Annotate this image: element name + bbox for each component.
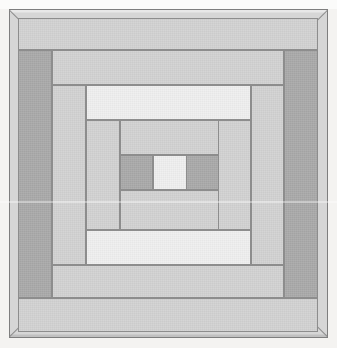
ring-4-top xyxy=(120,120,219,155)
artwork-canvas xyxy=(0,0,337,348)
ring-4-bottom xyxy=(120,190,219,230)
center-square xyxy=(153,155,187,190)
ring-4-right xyxy=(186,155,219,190)
ring-4-left xyxy=(120,155,153,190)
